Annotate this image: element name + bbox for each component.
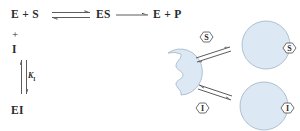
enzyme-inhibitor-complex-shape: I bbox=[240, 82, 294, 130]
equilibrium-arrow-substrate-binding bbox=[196, 47, 231, 62]
inhibitor-ligand-icon: I bbox=[196, 103, 209, 113]
enzyme-inhibition-figure: E + S + I KI EI ES E + P bbox=[0, 0, 300, 131]
free-enzyme-shape bbox=[168, 49, 202, 95]
equilibrium-arrow-inhibitor-binding bbox=[198, 85, 232, 100]
inhibitor-ligand-label: I bbox=[201, 104, 204, 113]
enzyme-substrate-complex-shape: S bbox=[242, 21, 296, 69]
figure-vector-layer: S I S I bbox=[0, 0, 300, 131]
equilibrium-arrow-ei bbox=[22, 60, 27, 94]
substrate-ligand-icon: S bbox=[200, 32, 213, 42]
substrate-ligand-label: S bbox=[204, 33, 209, 42]
bound-substrate-label: S bbox=[287, 44, 292, 53]
equilibrium-arrow-es bbox=[52, 13, 90, 18]
bound-inhibitor-label: I bbox=[286, 104, 289, 113]
